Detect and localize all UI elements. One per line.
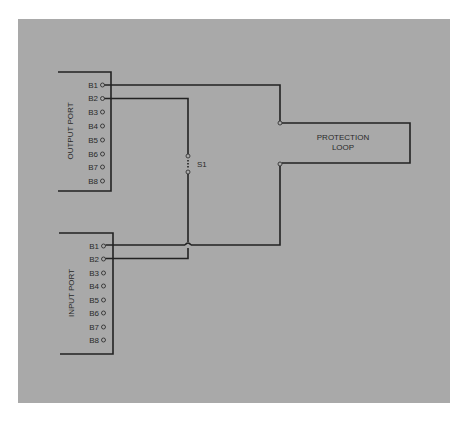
- output-pin-b6-label: B6: [88, 150, 98, 159]
- input-pin-b2: [102, 257, 106, 261]
- output-pin-b3: [101, 110, 105, 114]
- input-pin-b8-label: B8: [89, 336, 99, 345]
- output-pin-b8-label: B8: [88, 177, 98, 186]
- protection-loop-label-line2: LOOP: [332, 143, 354, 152]
- wire-output-b1-to-loop: [105, 85, 281, 121]
- s1-contact-top: [186, 154, 190, 158]
- wire-crossover-hop: [185, 243, 191, 245]
- output-pin-b5-label: B5: [88, 136, 98, 145]
- input-pin-b7: [102, 325, 106, 329]
- input-pin-b6: [102, 311, 106, 315]
- wiring-diagram: OUTPUT PORT B1 B2 B3 B4 B5 B6 B7 B8 INPU…: [0, 0, 468, 422]
- output-pin-b7: [101, 165, 105, 169]
- output-port-label: OUTPUT PORT: [66, 102, 75, 159]
- wire-loop-to-input-b1-a: [191, 166, 280, 245]
- input-port-label: INPUT PORT: [67, 269, 76, 317]
- input-pin-b4: [102, 284, 106, 288]
- loop-terminal-top: [278, 121, 282, 125]
- input-port: INPUT PORT B1 B2 B3 B4 B5 B6 B7 B8: [59, 233, 113, 354]
- input-pin-b3-label: B3: [89, 269, 99, 278]
- input-pin-b8: [102, 338, 106, 342]
- output-pin-b4-label: B4: [88, 122, 98, 131]
- output-pin-b2: [101, 97, 105, 101]
- output-pin-b1-label: B1: [88, 81, 98, 90]
- output-pin-b7-label: B7: [88, 163, 98, 172]
- output-pin-b8: [101, 179, 105, 183]
- loop-terminal-bottom: [278, 162, 282, 166]
- output-pin-b5: [101, 138, 105, 142]
- input-pin-b1-label: B1: [89, 242, 99, 251]
- input-pin-b1: [102, 244, 106, 248]
- input-pin-b7-label: B7: [89, 323, 99, 332]
- input-pin-b4-label: B4: [89, 282, 99, 291]
- protection-loop-label-line1: PROTECTION: [317, 133, 370, 142]
- input-pins: B1 B2 B3 B4 B5 B6 B7 B8: [89, 242, 105, 345]
- output-pin-b4: [101, 124, 105, 128]
- input-pin-b6-label: B6: [89, 309, 99, 318]
- input-pin-b5: [102, 298, 106, 302]
- switch-s1-label: S1: [197, 160, 207, 169]
- wire-output-b2-to-s1: [105, 99, 189, 155]
- input-pin-b3: [102, 271, 106, 275]
- output-pins: B1 B2 B3 B4 B5 B6 B7 B8: [88, 81, 104, 186]
- output-pin-b2-label: B2: [88, 94, 98, 103]
- output-pin-b6: [101, 152, 105, 156]
- input-pin-b5-label: B5: [89, 296, 99, 305]
- output-pin-b3-label: B3: [88, 108, 98, 117]
- output-pin-b1: [101, 83, 105, 87]
- s1-contact-bottom: [186, 170, 190, 174]
- wire-s1-to-input-b2: [106, 248, 189, 259]
- output-port: OUTPUT PORT B1 B2 B3 B4 B5 B6 B7 B8: [58, 72, 111, 191]
- input-pin-b2-label: B2: [89, 255, 99, 264]
